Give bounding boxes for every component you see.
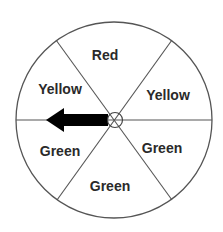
section-label-yellow-left: Yellow <box>38 81 82 97</box>
spinner-diagram: Red Yellow Green Green Green Yellow <box>0 0 223 232</box>
section-label-red: Red <box>92 47 118 63</box>
section-label-green-bottom: Green <box>90 178 130 194</box>
section-label-green-right: Green <box>142 140 182 156</box>
section-label-yellow-right: Yellow <box>146 87 190 103</box>
section-label-green-left: Green <box>40 143 80 159</box>
